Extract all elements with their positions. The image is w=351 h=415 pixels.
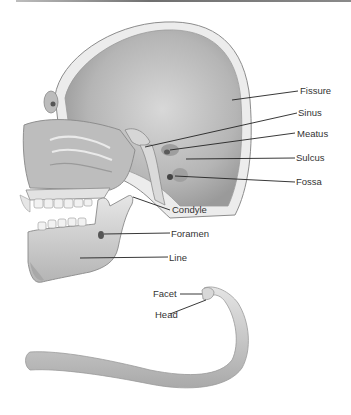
label-fissure: Fissure <box>300 85 331 96</box>
label-foramen: Foramen <box>171 228 209 239</box>
label-sinus: Sinus <box>298 107 322 118</box>
skull <box>20 22 251 218</box>
label-fossa: Fossa <box>296 176 322 187</box>
label-condyle: Condyle <box>172 204 207 215</box>
rib <box>26 287 249 388</box>
label-facet: Facet <box>153 288 177 299</box>
label-head: Head <box>155 309 178 320</box>
label-sulcus: Sulcus <box>296 152 325 163</box>
label-line: Line <box>169 252 187 263</box>
mandible <box>28 195 133 282</box>
label-meatus: Meatus <box>297 128 328 139</box>
